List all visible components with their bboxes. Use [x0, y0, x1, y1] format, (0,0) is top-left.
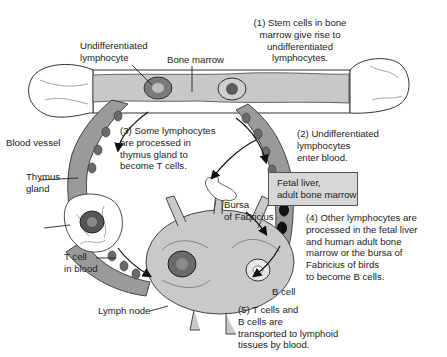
label-bone-marrow: Bone marrow — [167, 54, 224, 66]
step-4-text: (4) Other lymphocytes are processed in t… — [306, 212, 446, 283]
label-blood-vessel: Blood vessel — [6, 137, 60, 149]
leader-line — [150, 306, 168, 311]
label-t-cell-in-blood: T cell in blood — [64, 251, 98, 275]
label-undifferentiated-lymphocyte: Undifferentiated lymphocyte — [80, 40, 148, 64]
step-5-text: (5) T cells and B cells are transported … — [238, 304, 348, 351]
stem-cell — [218, 78, 246, 100]
step-1-text: (1) Stem cells in bone marrow give rise … — [241, 17, 359, 64]
stem-cell — [144, 77, 172, 99]
fetal-liver-box: Fetal liver, adult bone marrow — [268, 172, 358, 206]
step-2-text: (2) Undifferentiated lymphocytes enter b… — [297, 128, 387, 163]
step-3-text: (3) Some lymphocytes are processed in th… — [120, 125, 235, 172]
thymus-gland — [64, 194, 122, 252]
label-lymph-node: Lymph node — [98, 305, 150, 317]
label-bursa-of-fabricius: Bursa of Fabricius — [224, 199, 274, 223]
label-thymus-gland: Thymus gland — [26, 171, 60, 195]
label-b-cell: B cell — [272, 286, 295, 298]
